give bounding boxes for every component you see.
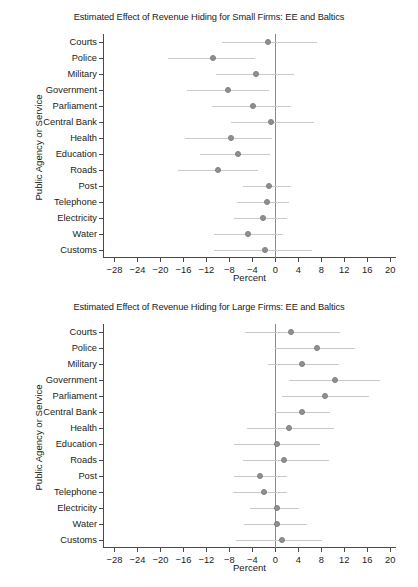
y-axis-tick — [99, 460, 103, 461]
chart-panel-large-firms: Estimated Effect of Revenue Hiding for L… — [0, 290, 418, 587]
x-axis-line — [103, 547, 396, 548]
y-axis-tick-label: Education — [56, 439, 97, 449]
x-axis-tick — [114, 258, 115, 262]
y-axis-tick-label: Water — [73, 519, 97, 529]
y-axis-tick — [99, 332, 103, 333]
y-axis-line — [103, 324, 104, 548]
y-axis-title-small-firms: Public Agency or Service — [33, 68, 44, 228]
x-axis-tick — [321, 548, 322, 552]
x-axis-tick — [183, 258, 184, 262]
y-axis-tick-label: Electricity — [57, 213, 97, 223]
x-axis-tick — [298, 548, 299, 552]
point-estimate-marker — [228, 135, 234, 141]
y-axis-tick — [99, 218, 103, 219]
x-axis-tick — [367, 258, 368, 262]
y-axis-tick — [99, 170, 103, 171]
point-estimate-marker — [253, 71, 259, 77]
y-axis-tick-label: Police — [72, 343, 97, 353]
y-axis-title-large-firms: Public Agency or Service — [33, 358, 44, 518]
y-axis-tick — [99, 74, 103, 75]
y-axis-tick-label: Telephone — [54, 487, 97, 497]
y-axis-tick — [99, 250, 103, 251]
x-axis-tick — [206, 258, 207, 262]
y-axis-tick — [99, 476, 103, 477]
y-axis-tick — [99, 412, 103, 413]
x-axis-tick — [275, 258, 276, 262]
y-axis-tick-label: Government — [46, 375, 97, 385]
y-axis-tick — [99, 380, 103, 381]
point-estimate-marker — [332, 377, 338, 383]
y-axis-tick-label: Post — [78, 471, 97, 481]
x-axis-tick — [229, 258, 230, 262]
x-axis-tick — [252, 258, 253, 262]
point-estimate-marker — [215, 167, 221, 173]
x-axis-line — [103, 257, 396, 258]
point-estimate-marker — [281, 457, 287, 463]
point-estimate-marker — [235, 151, 241, 157]
x-axis-tick — [252, 548, 253, 552]
y-axis-title-wrap-large-firms: Public Agency or Service — [18, 324, 38, 548]
y-axis-tick — [99, 122, 103, 123]
x-axis-tick — [275, 548, 276, 552]
y-axis-tick-label: Parliament — [53, 391, 97, 401]
point-estimate-marker — [262, 247, 268, 253]
y-axis-tick-label: Customs — [60, 535, 97, 545]
y-axis-tick — [99, 348, 103, 349]
y-axis-tick — [99, 154, 103, 155]
plot-area-small-firms: −28−24−20−16−12−8−4048121620CourtsPolice… — [103, 34, 396, 258]
point-estimate-marker — [322, 393, 328, 399]
point-estimate-marker — [264, 199, 270, 205]
y-axis-tick — [99, 396, 103, 397]
y-axis-tick-label: Central Bank — [43, 117, 97, 127]
y-axis-tick-label: Military — [68, 69, 97, 79]
x-axis-tick — [344, 548, 345, 552]
point-estimate-marker — [274, 521, 280, 527]
y-axis-tick-label: Central Bank — [43, 407, 97, 417]
point-estimate-marker — [274, 505, 280, 511]
x-axis-tick — [344, 258, 345, 262]
x-axis-tick — [229, 548, 230, 552]
point-estimate-marker — [225, 87, 231, 93]
y-axis-tick-label: Government — [46, 85, 97, 95]
y-axis-tick — [99, 58, 103, 59]
point-estimate-marker — [250, 103, 256, 109]
point-estimate-marker — [210, 55, 216, 61]
point-estimate-marker — [299, 409, 305, 415]
y-axis-tick — [99, 444, 103, 445]
y-axis-tick — [99, 540, 103, 541]
y-axis-tick-label: Police — [72, 53, 97, 63]
x-axis-tick — [183, 548, 184, 552]
x-axis-tick — [367, 548, 368, 552]
point-estimate-marker — [279, 537, 285, 543]
y-axis-tick — [99, 138, 103, 139]
y-axis-title-wrap-small-firms: Public Agency or Service — [18, 34, 38, 258]
y-axis-tick-label: Roads — [70, 455, 97, 465]
y-axis-tick-label: Roads — [70, 165, 97, 175]
confidence-interval-bar — [237, 202, 289, 203]
x-axis-title-small-firms: Percent — [103, 272, 396, 283]
point-estimate-marker — [261, 489, 267, 495]
y-axis-tick — [99, 186, 103, 187]
y-axis-tick-label: Courts — [70, 327, 97, 337]
point-estimate-marker — [266, 183, 272, 189]
x-axis-tick — [137, 548, 138, 552]
y-axis-tick-label: Courts — [70, 37, 97, 47]
y-axis-tick — [99, 106, 103, 107]
point-estimate-marker — [257, 473, 263, 479]
x-axis-tick — [114, 548, 115, 552]
y-axis-tick-label: Health — [70, 133, 97, 143]
point-estimate-marker — [260, 215, 266, 221]
zero-reference-line — [275, 34, 276, 258]
y-axis-tick-label: Education — [56, 149, 97, 159]
y-axis-tick-label: Customs — [60, 245, 97, 255]
y-axis-tick-label: Water — [73, 229, 97, 239]
x-axis-tick — [137, 258, 138, 262]
y-axis-tick — [99, 234, 103, 235]
y-axis-tick-label: Post — [78, 181, 97, 191]
y-axis-line — [103, 34, 104, 258]
y-axis-tick — [99, 42, 103, 43]
point-estimate-marker — [265, 39, 271, 45]
y-axis-tick — [99, 90, 103, 91]
x-axis-tick — [390, 258, 391, 262]
y-axis-tick-label: Parliament — [53, 101, 97, 111]
